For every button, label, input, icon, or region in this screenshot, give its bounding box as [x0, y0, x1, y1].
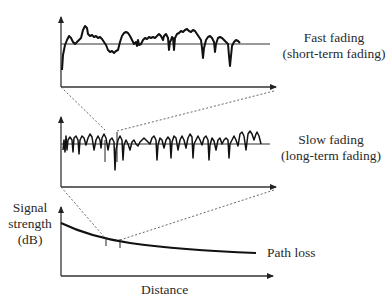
fast-fading-subtitle: (short-term fading): [282, 46, 386, 62]
slow-fading-panel: [61, 117, 276, 187]
y-axis-label: Signal strength (dB): [2, 200, 58, 248]
path-loss-label: Path loss: [267, 245, 315, 261]
x-axis-label: Distance: [141, 282, 188, 298]
zoom-line-right: [117, 91, 274, 131]
path-loss-panel: [61, 207, 273, 276]
y-axis-label-line2: strength: [2, 216, 58, 232]
y-axis-label-line3: (dB): [2, 232, 58, 248]
slow-fading-title: Slow fading: [276, 132, 386, 148]
y-axis-label-line1: Signal: [2, 200, 58, 216]
slow-fading-label: Slow fading (long-term fading): [276, 132, 386, 164]
fast-fading-label: Fast fading (short-term fading): [282, 30, 386, 62]
zoom-line-left: [61, 87, 105, 130]
fast-fading-panel: [61, 17, 276, 87]
fast-fading-signal: [62, 26, 240, 70]
slow-fading-signal: [63, 131, 261, 170]
zoom-line-right: [120, 190, 274, 240]
fast-fading-title: Fast fading: [282, 30, 386, 46]
slow-fading-subtitle: (long-term fading): [276, 148, 386, 164]
